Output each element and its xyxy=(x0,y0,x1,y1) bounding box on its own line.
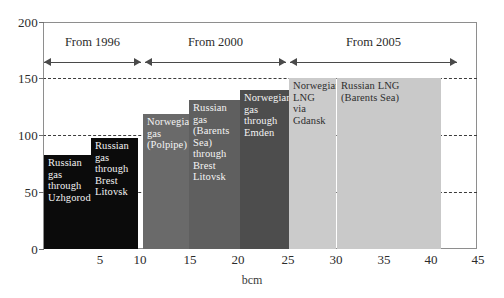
x-axis-title: bcm xyxy=(0,273,504,288)
bar-label-line: Litovsk xyxy=(95,186,136,198)
bar-label-line: Russian xyxy=(95,140,136,152)
bar-russian-gas-brest-litovsk: Russian gas through Brest Litovsk xyxy=(91,138,138,249)
arrow-head-right-icon xyxy=(450,58,457,66)
period-label-2000: From 2000 xyxy=(145,36,286,49)
period-arrow-2005 xyxy=(290,58,457,67)
arrow-head-left-icon xyxy=(290,58,297,66)
bar-norwegian-lng-gdansk: Norwegian LNG via Gdansk xyxy=(289,78,336,249)
bar-label-line: LNG xyxy=(293,92,334,104)
bar-label-line: through xyxy=(193,148,238,160)
arrow-head-left-icon xyxy=(44,58,51,66)
bar-label-line: Brest xyxy=(95,175,136,187)
x-tick-label-10: 10 xyxy=(125,253,155,267)
bar-label-barents-brest: Russian gas (Barents Sea) through Brest … xyxy=(193,102,238,183)
y-tick-label-100: 100 xyxy=(4,129,38,142)
bar-label-line: gas xyxy=(147,128,187,140)
bar-label-line: through xyxy=(95,163,136,175)
period-line xyxy=(290,62,457,63)
x-tick-label-40: 40 xyxy=(416,253,446,267)
y-tick-label-0: 0 xyxy=(4,243,38,256)
bar-label-russian-lng: Russian LNG (Barents Sea) xyxy=(341,80,439,103)
y-axis: 200 150 100 50 0 xyxy=(0,0,38,298)
bar-label-line: Litovsk xyxy=(193,171,238,183)
bar-label-line: gas xyxy=(244,104,287,116)
bar-label-line: Russian xyxy=(193,102,238,114)
bar-label-emden: Norwegian gas through Emden xyxy=(244,92,287,138)
y-tick-label-200: 200 xyxy=(4,16,38,29)
y-tick-label-50: 50 xyxy=(4,186,38,199)
period-arrow-1996 xyxy=(44,58,141,67)
bar-label-gdansk: Norwegian LNG via Gdansk xyxy=(293,80,334,126)
bar-label-line: gas xyxy=(95,152,136,164)
bar-label-line: Russian LNG xyxy=(341,80,439,92)
bar-label-line: through xyxy=(244,115,287,127)
bar-label-brest-litovsk: Russian gas through Brest Litovsk xyxy=(95,140,136,198)
chart-container: 200 150 100 50 0 Russian gas through Uzh… xyxy=(0,0,504,298)
arrow-head-right-icon xyxy=(134,58,141,66)
bar-label-line: via Gdansk xyxy=(293,103,334,126)
x-tick-label-15: 15 xyxy=(175,253,205,267)
y-tick-mark-150 xyxy=(39,78,44,79)
bar-label-line: Norwegian xyxy=(147,116,187,128)
bar-label-line: (Polpipe) xyxy=(147,139,187,151)
period-line xyxy=(44,62,141,63)
x-tick-label-25: 25 xyxy=(273,253,303,267)
y-tick-mark-200 xyxy=(39,22,44,23)
x-tick-label-20: 20 xyxy=(223,253,253,267)
bar-russian-lng-barents-sea: Russian LNG (Barents Sea) xyxy=(337,78,441,249)
bar-label-line: Norwegian xyxy=(293,80,334,92)
arrow-head-left-icon xyxy=(145,58,152,66)
x-tick-label-45: 45 xyxy=(463,253,493,267)
bar-label-line: gas xyxy=(193,114,238,126)
period-label-1996: From 1996 xyxy=(44,36,141,49)
bar-label-line: Sea) xyxy=(193,137,238,149)
bar-norwegian-gas-emden: Norwegian gas through Emden xyxy=(240,90,289,249)
y-tick-mark-100 xyxy=(39,135,44,136)
x-tick-label-30: 30 xyxy=(321,253,351,267)
bar-norwegian-gas-polpipe: Norwegian gas (Polpipe) xyxy=(143,114,189,249)
y-tick-mark-0 xyxy=(39,249,44,250)
bar-label-line: Norwegian xyxy=(244,92,287,104)
arrow-head-right-icon xyxy=(279,58,286,66)
x-tick-label-5: 5 xyxy=(85,253,115,267)
x-tick-label-35: 35 xyxy=(369,253,399,267)
y-tick-label-150: 150 xyxy=(4,72,38,85)
bar-label-polpipe: Norwegian gas (Polpipe) xyxy=(147,116,187,151)
bar-label-line: Emden xyxy=(244,127,287,139)
bar-russian-gas-barents-brest: Russian gas (Barents Sea) through Brest … xyxy=(189,100,240,249)
bar-label-line: (Barents Sea) xyxy=(341,92,439,104)
period-line xyxy=(145,62,286,63)
period-label-2005: From 2005 xyxy=(290,36,457,49)
period-arrow-2000 xyxy=(145,58,286,67)
bar-label-line: (Barents xyxy=(193,125,238,137)
bar-label-line: Brest xyxy=(193,160,238,172)
